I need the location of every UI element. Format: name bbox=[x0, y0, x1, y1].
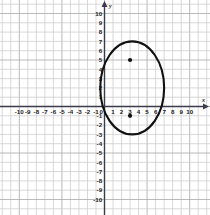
y-tick-label: 6 bbox=[99, 47, 103, 54]
x-tick-label: 2 bbox=[120, 108, 124, 115]
x-tick-label: 9 bbox=[179, 108, 183, 115]
y-tick-label: -3 bbox=[97, 131, 103, 138]
x-tick-label: 1 bbox=[111, 108, 115, 115]
graph-canvas: -10-9-8-7-6-5-4-3-2-11234567891010987654… bbox=[0, 0, 210, 215]
x-tick-label: -4 bbox=[68, 108, 74, 115]
x-tick-label: -9 bbox=[25, 108, 31, 115]
y-tick-label: -6 bbox=[97, 159, 103, 166]
y-tick-label: -2 bbox=[97, 121, 103, 128]
y-tick-label: -7 bbox=[97, 168, 103, 175]
x-tick-label: 7 bbox=[162, 108, 166, 115]
x-tick-label: 6 bbox=[154, 108, 158, 115]
y-tick-label: 9 bbox=[99, 19, 103, 26]
y-tick-label: -4 bbox=[97, 140, 103, 147]
y-tick-label: 5 bbox=[99, 56, 103, 63]
y-tick-label: -8 bbox=[97, 177, 103, 184]
x-tick-label: -5 bbox=[59, 108, 65, 115]
x-tick-label: 10 bbox=[186, 108, 193, 115]
x-tick-label: 8 bbox=[171, 108, 175, 115]
x-tick-label: -6 bbox=[51, 108, 57, 115]
x-axis-arrow-icon bbox=[203, 104, 209, 110]
y-axis-label: y bbox=[108, 3, 112, 9]
y-tick-label: -10 bbox=[93, 196, 103, 203]
upper-point bbox=[128, 58, 132, 62]
lower-point bbox=[128, 114, 132, 118]
x-tick-label: -3 bbox=[76, 108, 82, 115]
x-tick-label: -8 bbox=[34, 108, 40, 115]
y-tick-label: 8 bbox=[99, 28, 103, 35]
x-tick-label: -10 bbox=[15, 108, 25, 115]
x-tick-label: -7 bbox=[42, 108, 48, 115]
x-tick-label: 4 bbox=[137, 108, 141, 115]
x-tick-label: -2 bbox=[85, 108, 91, 115]
axes-layer bbox=[0, 1, 209, 215]
y-tick-label: -9 bbox=[97, 186, 103, 193]
y-tick-label: 7 bbox=[99, 38, 103, 45]
y-tick-label: -5 bbox=[97, 149, 103, 156]
x-tick-label: 5 bbox=[145, 108, 149, 115]
x-axis-label: x bbox=[201, 97, 205, 103]
y-tick-label: 10 bbox=[95, 10, 102, 17]
coordinate-plane-graph: -10-9-8-7-6-5-4-3-2-11234567891010987654… bbox=[0, 0, 210, 215]
